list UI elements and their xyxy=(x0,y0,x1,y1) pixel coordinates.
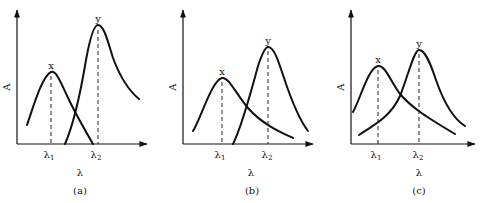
y-axis-label: A xyxy=(1,83,12,92)
y-axis-label: A xyxy=(335,83,346,92)
panel-b: A x y λ1 λ2 λ (b) xyxy=(167,10,313,196)
peak-y-label: y xyxy=(94,13,101,24)
peak-x-label: x xyxy=(375,54,381,65)
curve-x xyxy=(353,66,455,134)
peak-x-label: x xyxy=(48,60,54,71)
absorption-spectra-diagram: A x y λ1 λ2 λ (a) A x y λ1 λ2 λ (b) xyxy=(0,0,483,203)
curve-y xyxy=(233,47,308,144)
tick-lambda2: λ2 xyxy=(413,149,424,162)
panel-caption: (c) xyxy=(412,185,426,196)
curve-x xyxy=(27,72,93,144)
peak-x-label: x xyxy=(219,66,225,77)
panel-c: A x y λ1 λ2 λ (c) xyxy=(335,10,475,196)
tick-lambda1: λ1 xyxy=(44,149,55,162)
y-axis-label: A xyxy=(167,83,178,92)
x-axis-label: λ xyxy=(248,167,255,178)
tick-lambda1: λ1 xyxy=(371,149,382,162)
tick-lambda2: λ2 xyxy=(262,149,273,162)
x-axis-label: λ xyxy=(77,167,84,178)
peak-y-label: y xyxy=(264,35,271,46)
curve-x xyxy=(193,78,293,138)
panel-caption: (b) xyxy=(245,185,259,196)
panel-caption: (a) xyxy=(73,185,87,196)
x-axis-label: λ xyxy=(416,167,423,178)
tick-lambda1: λ1 xyxy=(215,149,226,162)
tick-lambda2: λ2 xyxy=(91,149,102,162)
curve-y xyxy=(65,25,139,144)
panel-a: A x y λ1 λ2 λ (a) xyxy=(1,10,147,196)
peak-y-label: y xyxy=(415,38,422,49)
